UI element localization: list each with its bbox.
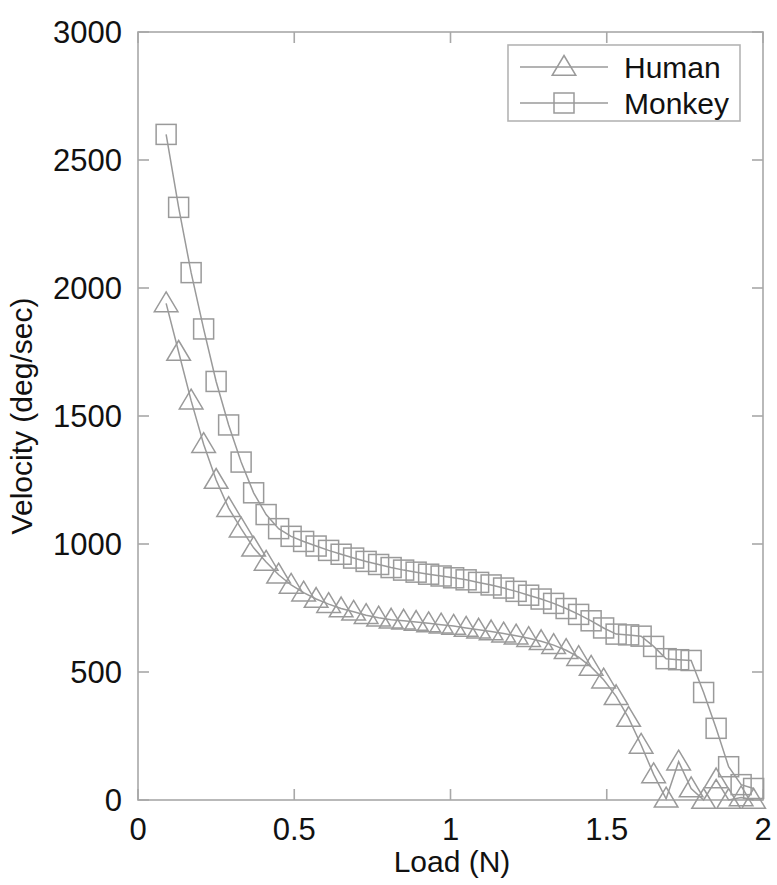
data-point-marker [404, 611, 428, 631]
chart-legend: HumanMonkey [508, 45, 740, 121]
y-axis-title: Velocity (deg/sec) [5, 298, 38, 535]
y-tick-label: 1000 [53, 527, 122, 562]
chart-figure: 00.511.52 050010001500200025003000 Human… [0, 0, 777, 885]
series-human [154, 292, 765, 808]
data-point-marker [154, 292, 178, 312]
legend-marker-triangle-icon [552, 56, 576, 76]
series-line-human [166, 303, 754, 800]
data-point-marker [392, 609, 416, 629]
data-point-marker [429, 613, 453, 633]
x-axis-ticks: 00.511.52 [129, 32, 771, 847]
x-axis-title: Load (N) [394, 845, 511, 878]
y-tick-label: 500 [70, 655, 122, 690]
data-series-group [154, 124, 765, 808]
y-tick-label: 0 [105, 783, 122, 818]
x-tick-label: 0.5 [273, 812, 316, 847]
data-point-marker [156, 124, 176, 144]
data-point-marker [242, 536, 266, 556]
y-tick-label: 3000 [53, 15, 122, 50]
velocity-load-chart: 00.511.52 050010001500200025003000 Human… [0, 0, 777, 885]
legend-label-human: Human [624, 51, 721, 84]
series-monkey [156, 124, 764, 798]
y-tick-label: 2500 [53, 143, 122, 178]
data-point-marker [417, 612, 441, 632]
y-axis-ticks: 050010001500200025003000 [53, 15, 763, 818]
y-tick-label: 1500 [53, 399, 122, 434]
data-point-marker [704, 768, 728, 788]
data-point-marker [292, 581, 316, 601]
x-tick-label: 1 [442, 812, 459, 847]
data-point-marker [229, 517, 253, 537]
data-point-marker [304, 588, 328, 608]
series-line-monkey [166, 134, 754, 788]
data-point-marker [617, 707, 641, 727]
legend-label-monkey: Monkey [624, 87, 729, 120]
x-tick-label: 0 [129, 812, 146, 847]
y-tick-label: 2000 [53, 271, 122, 306]
x-tick-label: 2 [754, 812, 771, 847]
x-tick-label: 1.5 [585, 812, 628, 847]
plot-frame [138, 32, 763, 800]
